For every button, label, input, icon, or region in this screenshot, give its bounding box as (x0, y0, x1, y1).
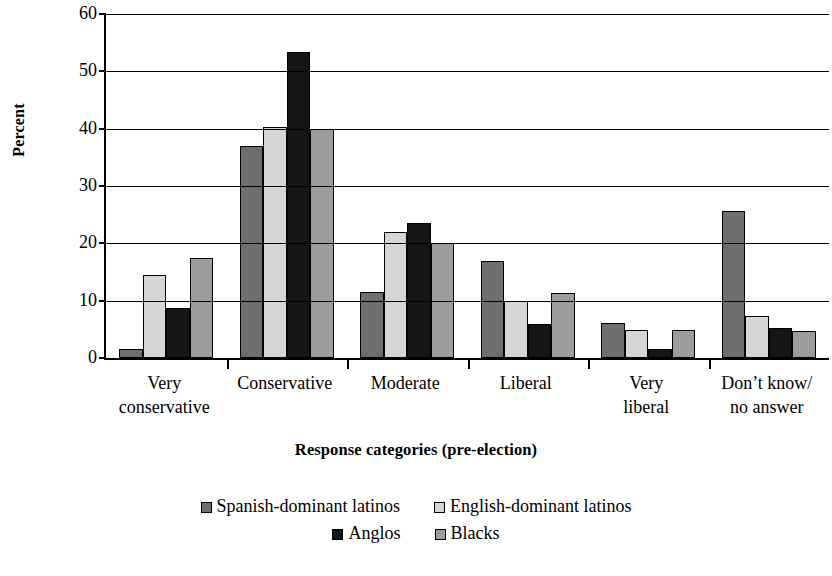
y-axis-tick-mark (99, 357, 106, 359)
gridline (106, 129, 829, 130)
bar (625, 330, 649, 358)
x-axis-tick-mark (588, 358, 590, 369)
y-axis-tick-mark (99, 300, 106, 302)
x-axis-tick-label: Liberal (466, 372, 587, 396)
x-axis-tick-mark (227, 358, 229, 369)
bar (722, 211, 746, 358)
bar (672, 330, 696, 358)
x-axis-tick-labels: Very conservativeConservativeModerateLib… (104, 372, 827, 430)
legend: Spanish-dominant latinosEnglish-dominant… (0, 496, 832, 550)
bar (166, 308, 190, 358)
x-axis-tick-mark (709, 358, 711, 369)
y-axis-tick-mark (99, 242, 106, 244)
y-axis-tick-mark (99, 128, 106, 130)
legend-item[interactable]: Blacks (435, 523, 500, 544)
bar (481, 261, 505, 358)
gridline (106, 186, 829, 187)
bar (240, 146, 264, 358)
y-axis-tick-label: 50 (79, 60, 97, 81)
gridline (106, 14, 829, 15)
x-axis-tick-label: Very conservative (104, 372, 225, 420)
gridline (106, 301, 829, 302)
x-axis-title: Response categories (pre-election) (0, 440, 832, 460)
y-axis-title: Percent (10, 60, 28, 200)
y-axis-tick-label: 0 (88, 347, 97, 368)
y-axis-tick-label: 30 (79, 175, 97, 196)
bar (648, 349, 672, 358)
legend-item[interactable]: English-dominant latinos (434, 496, 632, 517)
y-axis-tick-mark (99, 70, 106, 72)
x-axis-tick-label: Very liberal (586, 372, 707, 420)
gridline (106, 243, 829, 244)
x-axis-tick-label: Conservative (225, 372, 346, 396)
bar (119, 349, 143, 358)
legend-label: Anglos (348, 523, 400, 544)
bar-chart: Percent 0102030405060 Very conservativeC… (0, 0, 832, 576)
y-axis-tick-label: 10 (79, 290, 97, 311)
legend-label: Spanish-dominant latinos (217, 496, 401, 517)
bar (769, 328, 793, 358)
bar (287, 52, 311, 358)
bar (190, 258, 214, 358)
y-axis-tick-mark (99, 13, 106, 15)
bar (528, 324, 552, 358)
x-axis-tick-label: Don’t know/ no answer (707, 372, 828, 420)
legend-label: Blacks (451, 523, 500, 544)
legend-row-1: Spanish-dominant latinosEnglish-dominant… (0, 496, 832, 517)
y-axis-tick-mark (99, 185, 106, 187)
legend-swatch-icon (435, 529, 446, 540)
legend-label: English-dominant latinos (450, 496, 632, 517)
bar (792, 331, 816, 358)
bar (551, 293, 575, 358)
gridline (106, 71, 829, 72)
legend-row-2: AnglosBlacks (0, 523, 832, 544)
y-axis-tick-label: 60 (79, 3, 97, 24)
x-axis-tick-mark (468, 358, 470, 369)
y-axis-tick-label: 40 (79, 118, 97, 139)
bar (360, 292, 384, 358)
legend-swatch-icon (434, 502, 445, 513)
bar (504, 301, 528, 358)
x-axis-tick-label: Moderate (345, 372, 466, 396)
legend-swatch-icon (332, 529, 343, 540)
bar (143, 275, 167, 358)
legend-swatch-icon (201, 502, 212, 513)
bar (384, 232, 408, 358)
legend-item[interactable]: Spanish-dominant latinos (201, 496, 401, 517)
bar (745, 316, 769, 358)
x-axis-tick-mark (347, 358, 349, 369)
y-axis-tick-label: 20 (79, 232, 97, 253)
plot-area: 0102030405060 (104, 14, 829, 360)
bar (601, 323, 625, 358)
legend-item[interactable]: Anglos (332, 523, 400, 544)
